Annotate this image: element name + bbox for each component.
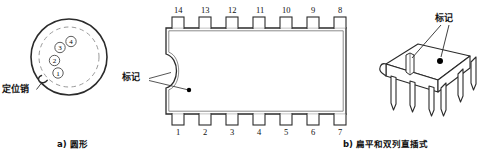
- chip-leg-r2: [458, 69, 463, 102]
- dip-pin-label-8: 8: [338, 6, 342, 15]
- chip-leg-r1: [441, 83, 446, 116]
- locating-pin-label: 定位销: [2, 85, 29, 94]
- pin-number-2: 2: [53, 57, 57, 65]
- dip-pin-label-7: 7: [338, 128, 342, 137]
- dip-pin-tab-4: [253, 114, 265, 125]
- dip-perspective-drawing: [380, 25, 476, 116]
- figure-root: 1 2 3 4: [0, 0, 486, 162]
- dip-package-drawing: [149, 17, 346, 125]
- marking-leader-line-notch: [149, 73, 171, 79]
- pin-number-4: 4: [69, 38, 73, 46]
- dip-pins-top: [172, 17, 346, 28]
- marking-dot: [187, 88, 191, 92]
- dip-body-outline: [166, 28, 346, 114]
- chip-leg-r3: [471, 57, 476, 90]
- dip-pin-tab-14: [172, 17, 184, 28]
- chip-leg-l1: [391, 76, 396, 110]
- chip-leg-l2: [410, 81, 415, 112]
- dip-pin-tab-5: [280, 114, 292, 125]
- dip-pin-tab-6: [307, 114, 319, 125]
- dip-pin-label-13: 13: [201, 6, 210, 15]
- dip-pin-tab-9: [307, 17, 319, 28]
- chip-marking-label: 标记: [435, 14, 453, 23]
- package-outer-circle: [31, 19, 107, 95]
- circular-package-drawing: 1 2 3 4: [31, 19, 107, 95]
- dip-pin-tab-1: [172, 114, 184, 125]
- dip-pin-tab-12: [226, 17, 238, 28]
- dip-pin-tab-2: [199, 114, 211, 125]
- dip-pins-bottom: [172, 114, 346, 125]
- pin-number-3: 3: [58, 44, 62, 52]
- locating-pin-leader-line: [37, 83, 42, 90]
- dip-pin-label-10: 10: [282, 6, 291, 15]
- dip-pin-label-5: 5: [284, 128, 288, 137]
- figure-svg: 1 2 3 4: [0, 0, 486, 162]
- dip-pin-label-14: 14: [174, 6, 183, 15]
- pin-number-1: 1: [56, 70, 60, 78]
- chip-notch-marking: [406, 53, 414, 75]
- dip-pin-tab-13: [199, 17, 211, 28]
- dip-pin-tab-7: [334, 114, 346, 125]
- chip-left-endcap: [380, 64, 386, 76]
- dip-pin-tab-3: [226, 114, 238, 125]
- dip-pin-label-11: 11: [256, 6, 264, 15]
- dip-pin-label-4: 4: [257, 128, 261, 137]
- dip-pin-label-3: 3: [230, 128, 234, 137]
- dip-pin-label-9: 9: [311, 6, 315, 15]
- panel-b-caption: b) 扁平和双列直插式: [343, 140, 428, 149]
- dip-pin-label-12: 12: [228, 6, 237, 15]
- panel-a-caption: a) 圆形: [57, 140, 88, 149]
- dip-pin-label-2: 2: [203, 128, 207, 137]
- dip-pin-label-6: 6: [311, 128, 315, 137]
- dip-marking-label: 标记: [122, 73, 140, 82]
- dip-pin-label-1: 1: [176, 128, 180, 137]
- dip-pin-tab-8: [334, 17, 346, 28]
- dip-pin-tab-11: [253, 17, 265, 28]
- chip-leg-l3: [429, 86, 434, 116]
- dip-pin-tab-10: [280, 17, 292, 28]
- chip-marking-dot: [437, 58, 443, 64]
